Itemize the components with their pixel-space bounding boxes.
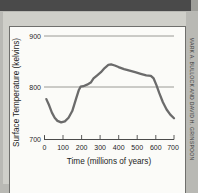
x-tick-label-300: 300 (94, 144, 106, 151)
x-tick-label-500: 500 (131, 144, 143, 151)
x-tick-label-200: 200 (76, 144, 88, 151)
x-tick-label-700: 700 (167, 144, 179, 151)
figure-page: Surface Temperature (kelvins) 900 800 70… (0, 0, 198, 193)
x-tick-label-400: 400 (113, 144, 125, 151)
x-tick-label-100: 100 (57, 144, 69, 151)
temperature-time-line-chart: Surface Temperature (kelvins) 900 800 70… (6, 14, 183, 182)
page-top-right-margin (191, 0, 198, 11)
temperature-series-line (46, 64, 174, 122)
y-tick-label-800: 800 (29, 84, 41, 91)
y-axis-title: Surface Temperature (kelvins) (12, 38, 21, 147)
x-axis-ticks (45, 135, 175, 140)
x-axis-title: Time (millions of years) (67, 157, 152, 166)
page-top-dark-band (0, 0, 191, 11)
y-tick-label-700: 700 (29, 136, 41, 143)
illustration-credit-text: MARK A. BULLOCK AND DAVID H. GRINSPOON (189, 38, 195, 161)
x-tick-label-600: 600 (150, 144, 162, 151)
y-tick-label-900: 900 (29, 33, 41, 40)
illustration-credit: MARK A. BULLOCK AND DAVID H. GRINSPOON (186, 14, 198, 184)
x-tick-label-0: 0 (43, 144, 47, 151)
